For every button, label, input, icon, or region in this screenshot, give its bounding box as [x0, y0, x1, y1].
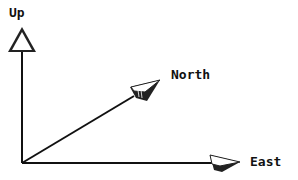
- east-arrowhead-icon: [210, 155, 240, 172]
- north-axis: [22, 80, 160, 163]
- up-arrowhead-icon: [8, 27, 36, 52]
- north-arrowhead-icon: [130, 80, 160, 101]
- up-axis-label: Up: [9, 6, 25, 19]
- north-axis-label: North: [171, 68, 210, 81]
- north-axis-line: [22, 96, 134, 163]
- east-axis: [22, 155, 240, 172]
- axes-diagram: [0, 0, 298, 180]
- up-axis: [8, 27, 36, 163]
- east-axis-label: East: [250, 155, 281, 168]
